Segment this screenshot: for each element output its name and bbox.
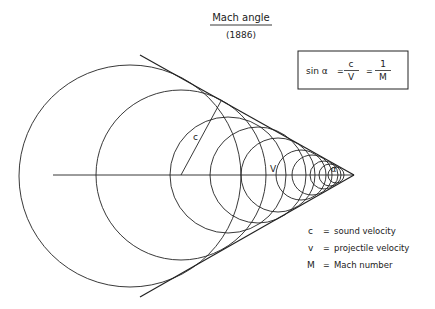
legend-text: sound velocity <box>334 226 396 236</box>
mach-cone-lower-line <box>140 175 354 297</box>
formula-frac2-num: 1 <box>380 59 386 69</box>
legend-symbol: M <box>307 260 315 270</box>
legend-symbol: v <box>308 243 314 253</box>
label-c: c <box>193 132 198 142</box>
legend-eq: = <box>323 227 330 236</box>
legend: c = sound velocity v = projectile veloci… <box>307 226 409 270</box>
wavefront-circle <box>19 65 241 287</box>
radius-c-line <box>181 101 221 175</box>
formula-lhs: sin α <box>306 66 328 76</box>
legend-eq: = <box>323 261 330 270</box>
legend-eq: = <box>323 244 330 253</box>
title-year: (1886) <box>226 30 256 40</box>
formula-frac1-num: c <box>349 59 354 69</box>
formula-eq2: = <box>366 67 373 76</box>
formula-eq1: = <box>337 67 344 76</box>
formula-frac2-den: M <box>379 72 387 82</box>
formula-box: sin α = c V = 1 M <box>298 51 408 89</box>
mach-cone-diagram: Mach angle (1886) sin α = c V = 1 M c V … <box>0 0 435 309</box>
formula-frac1-den: V <box>348 72 355 82</box>
legend-text: Mach number <box>334 260 393 270</box>
label-alpha: α <box>331 165 336 174</box>
title-main: Mach angle <box>212 12 270 23</box>
legend-text: projectile velocity <box>334 243 409 253</box>
legend-symbol: c <box>308 226 313 236</box>
wavefront-circles <box>19 65 344 287</box>
label-v: V <box>270 164 277 174</box>
